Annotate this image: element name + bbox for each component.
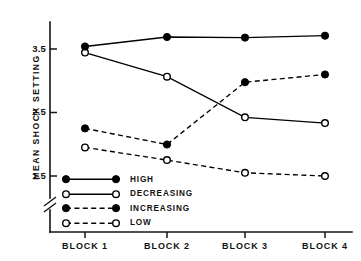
x-tick-label-block-2: BLOCK 2 [127,241,207,251]
series-high-point-block-3 [241,34,248,41]
x-tick-label-block-3: BLOCK 3 [205,241,285,251]
legend-swatch-increasing [60,201,122,216]
series-decreasing-point-block-3 [242,114,249,121]
legend-item-high: HIGH [60,172,210,187]
legend-swatch-decreasing [60,187,122,202]
legend-label-increasing: INCREASING [130,204,190,213]
series-low-point-block-3 [242,170,249,177]
series-low-point-block-4 [322,173,329,180]
legend-label-low: LOW [130,218,152,227]
series-high-line [85,36,325,47]
series-decreasing-point-block-4 [322,120,329,127]
y-tick-label-3-5: 3.5 [16,43,46,54]
chart-figure: MEAN SHOCK SETTING 3.5 2.5 1.5 BLOCK 1 B… [0,0,361,261]
y-tick-label-1-5: 1.5 [16,170,46,181]
series-increasing-point-block-3 [241,79,248,86]
legend-item-low: LOW [60,216,210,231]
series-increasing [81,71,328,148]
x-tick-label-block-4: BLOCK 4 [285,241,361,251]
series-decreasing [82,49,329,126]
legend-swatch-low [60,216,122,231]
series-high-point-block-4 [321,32,328,39]
legend-item-decreasing: DECREASING [60,187,210,202]
series-high-point-block-2 [163,33,170,40]
series-increasing-point-block-2 [163,141,170,148]
legend-label-decreasing: DECREASING [130,189,193,198]
series-decreasing-line [85,53,325,124]
series-increasing-point-block-1 [81,125,88,132]
series-high-point-block-1 [81,43,88,50]
series-low-point-block-1 [82,144,89,151]
series-low-point-block-2 [164,157,171,164]
y-tick-label-2-5: 2.5 [16,106,46,117]
series-increasing-point-block-4 [321,71,328,78]
legend-label-high: HIGH [130,175,154,184]
chart-legend: HIGH DECREASING INCREASING [60,172,210,230]
legend-swatch-high [60,172,122,187]
series-high [81,32,328,50]
x-tick-label-block-1: BLOCK 1 [45,241,125,251]
legend-item-increasing: INCREASING [60,201,210,216]
series-decreasing-point-block-2 [164,73,171,80]
series-increasing-line [85,75,325,145]
